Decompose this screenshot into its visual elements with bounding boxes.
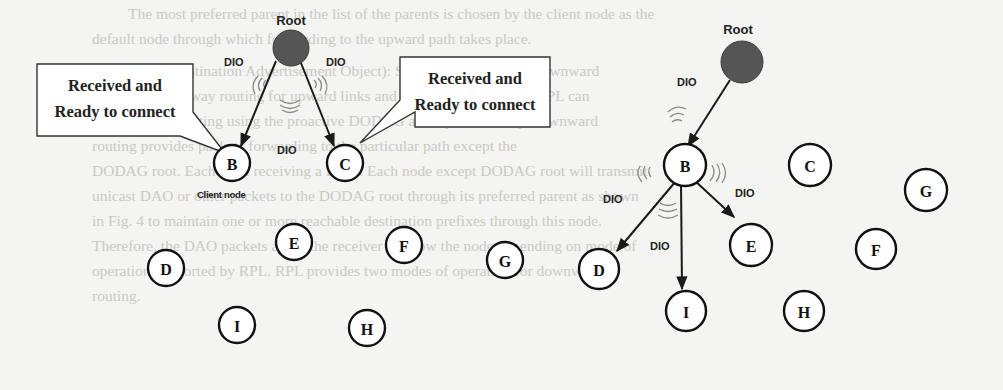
right-node-g: G [905,169,947,211]
svg-text:D: D [593,262,605,279]
left-root-wave-icon-right [314,76,327,94]
right-node-b: B [664,144,706,186]
right-node-h: H [784,291,824,331]
right-dio-label: DIO [650,240,670,252]
svg-text:F: F [399,238,409,255]
svg-text:H: H [361,321,374,338]
right-node-e: E [730,224,772,266]
callout-right-line1: Received and [428,69,522,88]
svg-text:H: H [798,304,811,321]
callout-left-line2: Ready to connect [55,102,176,121]
svg-text:C: C [339,156,351,173]
svg-text:E: E [289,235,300,252]
right-node-d: D [579,249,619,289]
left-node-f: F [386,227,422,263]
left-root-wave-icon-down [280,100,300,113]
right-node-c: C [789,144,831,186]
right-root-node [721,41,763,83]
left-node-g: G [487,242,523,278]
right-dio-label: DIO [677,76,697,88]
left-arrow-root-to-c [301,63,334,146]
left-node-e: E [276,224,312,260]
right-arrow-root-to-b [688,80,730,146]
right-arrow-b-to-i [681,183,682,289]
svg-text:B: B [227,156,238,173]
left-dio-label: DIO [277,144,297,156]
left-root-label: Root [276,13,306,28]
left-dio-label: DIO [224,56,244,68]
left-node-b: B [214,145,250,181]
left-node-h: H [349,310,385,346]
left-node-i: I [219,307,255,343]
left-arrow-root-to-b [241,61,276,146]
right-b-wave-icon-left [638,166,651,182]
rpl-dio-diagram: Received and Ready to connect Received a… [0,0,1003,390]
right-root-label: Root [723,22,753,37]
left-node-d: D [148,250,184,286]
svg-text:G: G [920,183,933,200]
callout-left: Received and Ready to connect [37,64,225,153]
svg-text:I: I [683,304,689,321]
svg-text:E: E [746,238,757,255]
svg-text:B: B [680,158,691,175]
right-node-i: I [666,291,706,331]
right-b-wave-icon-right [710,163,726,183]
right-node-f: F [856,229,896,269]
right-diagram: Root DIO DIO DIO DIO [579,22,947,331]
left-diagram: Received and Ready to connect Received a… [37,13,550,346]
svg-text:C: C [804,158,816,175]
callout-right: Received and Ready to connect [360,57,550,143]
right-dio-label: DIO [603,193,623,205]
callout-right-line2: Ready to connect [415,95,536,114]
right-b-wave-icon-down [658,203,678,218]
right-dio-label: DIO [735,187,755,199]
svg-text:D: D [160,261,172,278]
callout-left-line1: Received and [68,76,162,95]
right-b-wave-icon-up [668,107,686,122]
left-root-node [273,30,309,66]
svg-text:G: G [499,253,512,270]
left-dio-label: DIO [326,56,346,68]
svg-text:F: F [871,242,881,259]
right-arrow-b-to-e [694,180,734,217]
left-node-c: C [327,145,363,181]
client-node-label: Client node [197,189,245,200]
svg-text:I: I [234,318,240,335]
